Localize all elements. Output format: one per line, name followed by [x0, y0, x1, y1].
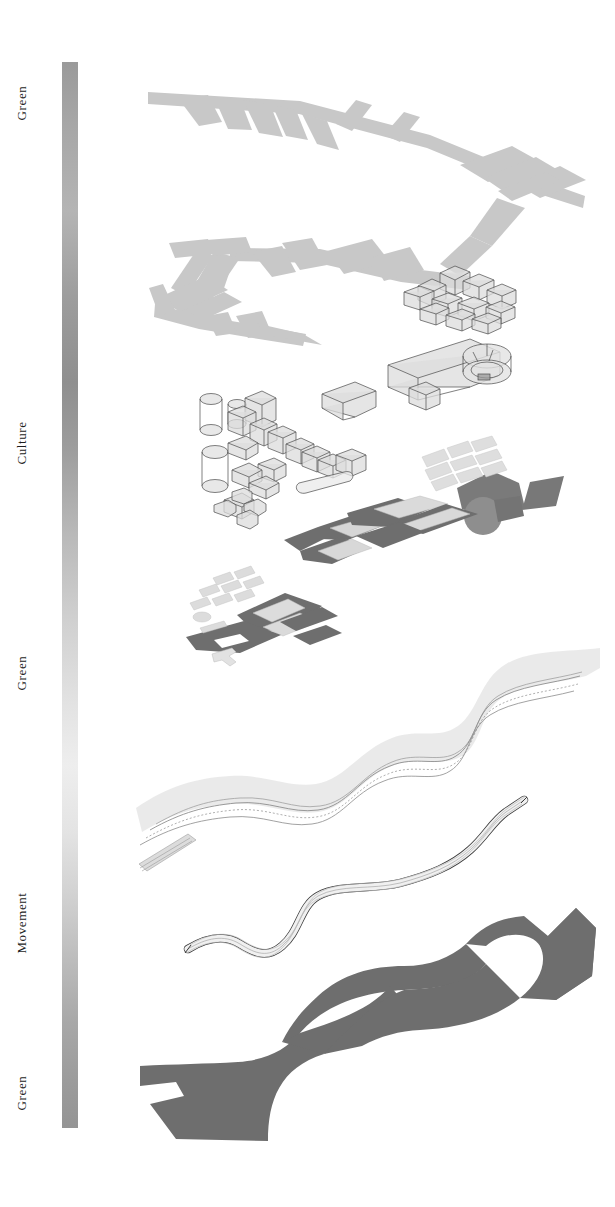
layer-green-network-top — [148, 92, 586, 346]
culture-ring — [463, 344, 511, 384]
layer-green-river — [136, 648, 600, 871]
diagram-canvas: Green Culture Green Movement Green — [0, 0, 615, 1207]
plaza-lower-left — [186, 566, 342, 666]
diagram-scene — [0, 0, 615, 1207]
layer-movement-road — [185, 796, 527, 957]
culture-detached-box — [322, 382, 376, 420]
plaza-center — [284, 496, 478, 564]
